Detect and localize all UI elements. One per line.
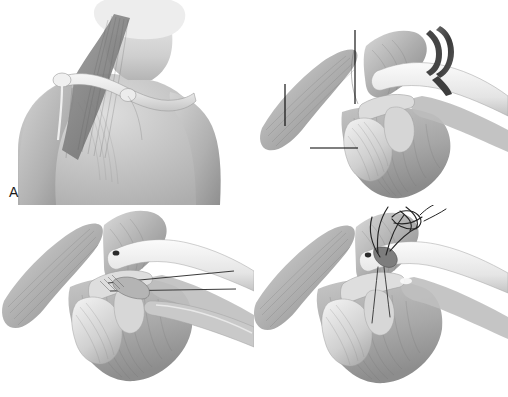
panel-a: A	[0, 0, 254, 205]
panel-c-illustration	[0, 205, 254, 397]
panel-a-illustration	[0, 0, 254, 205]
suture-tails	[420, 205, 446, 221]
panel-d-illustration	[254, 205, 508, 397]
sternoclavicular-joint	[120, 89, 136, 102]
panel-letter-a: A	[9, 184, 19, 200]
panel-d: D	[254, 205, 508, 397]
bone-highlight	[400, 278, 412, 284]
panel-b: Coracoacromial ligament Deltoid muscle C…	[254, 0, 508, 205]
figure-root: A	[0, 0, 508, 397]
panel-c: C	[0, 205, 254, 397]
panel-b-illustration	[254, 0, 508, 205]
acromioclavicular-joint	[53, 73, 71, 87]
acromion-marker	[365, 253, 371, 258]
acromion-marker	[113, 250, 120, 255]
